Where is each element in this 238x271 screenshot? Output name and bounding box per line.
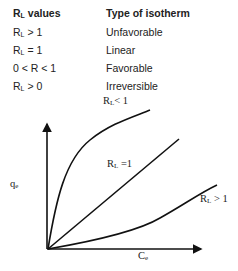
linear-label: RL =1 — [107, 158, 132, 170]
x-axis-label: Ce — [138, 250, 148, 262]
y-axis-label: qe — [10, 178, 18, 190]
unfavorable-label: RL > 1 — [200, 193, 228, 205]
linear-curve — [48, 139, 179, 249]
favorable-label: RL< 1 — [103, 95, 128, 107]
isotherm-graph — [0, 0, 238, 271]
unfavorable-curve — [48, 185, 217, 249]
